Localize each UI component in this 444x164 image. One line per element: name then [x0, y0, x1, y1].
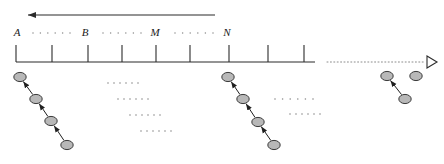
dot-row-5-dot [305, 98, 307, 100]
chain-middle-node-3 [268, 140, 280, 149]
ellipsis-m-n-dot [182, 32, 184, 34]
ellipsis-a-b-dot [32, 32, 34, 34]
ellipsis-b-m-dot [117, 32, 119, 34]
diagram-canvas: ABMN [0, 0, 444, 164]
chain-right-node-1 [399, 94, 411, 103]
dot-row-3-dot [141, 114, 143, 116]
dot-row-2-dot [147, 98, 149, 100]
dot-row-6-dot [307, 113, 309, 115]
dot-row-5-dot [312, 98, 314, 100]
chain-middle-node-2 [252, 117, 264, 126]
ellipsis-dot-rows [107, 82, 321, 132]
chain-left-node-0 [14, 72, 26, 81]
chain-left-arrow-1 [23, 82, 32, 95]
dot-row-2-dot [123, 98, 125, 100]
dot-row-4-dot [164, 130, 166, 132]
chain-middle-node-0 [222, 72, 234, 81]
dot-row-3-dot [129, 114, 131, 116]
chain-middle-arrow-3 [261, 127, 271, 141]
dot-row-4-dot [158, 130, 160, 132]
chain-left-node-1 [30, 94, 42, 103]
ellipsis-b-m-dot [110, 32, 112, 34]
ellipsis-m-n-dot [197, 32, 199, 34]
timeline-diagram: ABMN [0, 0, 444, 164]
chain-middle-node-1 [237, 94, 249, 103]
ellipsis-b-m-dot [125, 32, 127, 34]
ellipsis-b-m-dot [140, 32, 142, 34]
dot-row-3-dot [153, 114, 155, 116]
dot-row-6-dot [313, 113, 315, 115]
ellipsis-a-b-dot [40, 32, 42, 34]
ellipsis-m-n-dot [174, 32, 176, 34]
dot-row-2-dot [141, 98, 143, 100]
dot-row-5-dot [282, 98, 284, 100]
chain-left-arrow-2 [39, 104, 48, 117]
interval-ellipsis-dots [32, 32, 214, 34]
axis-tick-marks [16, 45, 304, 62]
dot-row-6-dot [289, 113, 291, 115]
chain-right-arrow-1 [390, 80, 401, 94]
dot-row-3-dot [135, 114, 137, 116]
dot-row-6-dot [301, 113, 303, 115]
ellipsis-m-n-dot [205, 32, 207, 34]
dot-row-2-dot [135, 98, 137, 100]
dot-row-1-dot [107, 82, 109, 84]
dot-row-2-dot [129, 98, 131, 100]
dot-row-4-dot [152, 130, 154, 132]
dot-row-3-dot [159, 114, 161, 116]
ellipsis-a-b-dot [62, 32, 64, 34]
dot-row-4-dot [140, 130, 142, 132]
ellipsis-m-n-dot [189, 32, 191, 34]
interval-label-m: M [149, 26, 160, 38]
chain-left-node-3 [61, 140, 73, 149]
ellipsis-b-m-dot [133, 32, 135, 34]
dot-row-5-dot [297, 98, 299, 100]
node-chains [14, 71, 422, 149]
dot-row-1-dot [119, 82, 121, 84]
ellipsis-a-b-dot [69, 32, 71, 34]
interval-label-n: N [222, 26, 231, 38]
dot-row-5-dot [289, 98, 291, 100]
dot-row-3-dot [147, 114, 149, 116]
main-timeline-axis [16, 56, 437, 68]
chain-left-node-2 [45, 116, 57, 125]
ellipsis-b-m-dot [102, 32, 104, 34]
node-isolated-right [410, 71, 422, 80]
dot-row-1-dot [131, 82, 133, 84]
chain-middle-arrow-2 [246, 104, 255, 118]
chain-right-node-0 [381, 71, 393, 80]
dot-row-5-dot [274, 98, 276, 100]
dot-row-4-dot [170, 130, 172, 132]
dot-row-6-dot [295, 113, 297, 115]
chain-middle-arrow-1 [231, 82, 240, 95]
interval-labels: ABMN [13, 26, 232, 38]
ellipsis-a-b-dot [54, 32, 56, 34]
dot-row-6-dot [319, 113, 321, 115]
dot-row-4-dot [146, 130, 148, 132]
chain-left-arrow-3 [54, 126, 64, 141]
dot-row-1-dot [125, 82, 127, 84]
dot-row-2-dot [117, 98, 119, 100]
dot-row-1-dot [113, 82, 115, 84]
interval-label-b: B [82, 26, 89, 38]
dot-row-1-dot [137, 82, 139, 84]
axis-arrowhead-icon [427, 56, 437, 68]
ellipsis-a-b-dot [47, 32, 49, 34]
ellipsis-m-n-dot [212, 32, 214, 34]
interval-label-a: A [13, 26, 21, 38]
